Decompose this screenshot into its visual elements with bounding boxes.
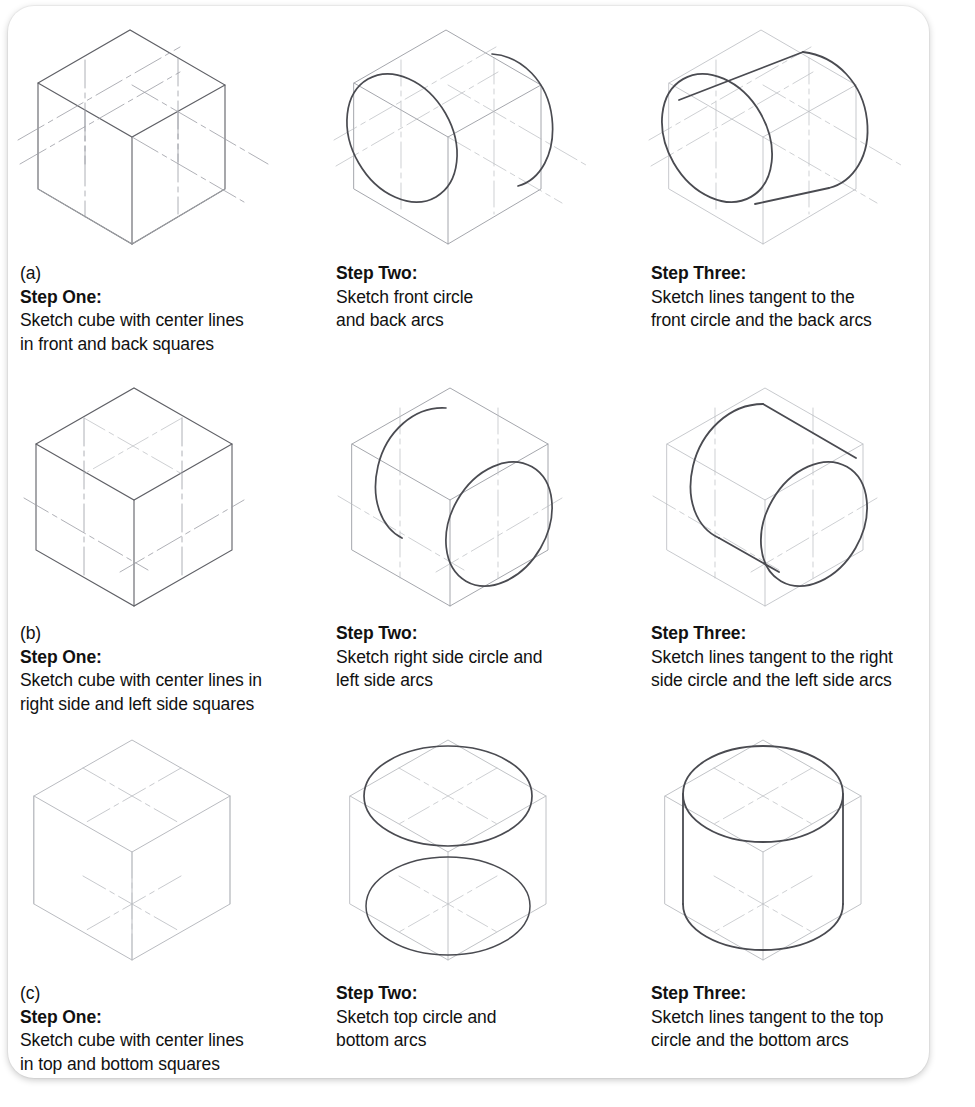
caption-line-1: Sketch cube with center lines: [20, 1029, 336, 1053]
sketch-right-circle-left-arcs: [336, 374, 651, 620]
step-title: Step Three:: [651, 622, 941, 646]
caption-line-2: in front and back squares: [20, 333, 336, 357]
caption-a-step-three: Step Three: Sketch lines tangent to the …: [651, 262, 941, 333]
sketch-cylinder-right-left: [651, 374, 941, 620]
caption-a-step-one: (a) Step One: Sketch cube with center li…: [20, 262, 336, 356]
caption-c-step-one: (c) Step One: Sketch cube with center li…: [20, 982, 336, 1076]
sketch-top-circle-bottom-arcs: [336, 734, 651, 980]
figure-cell-a2: Step Two: Sketch front circle and back a…: [336, 14, 651, 374]
caption-line-2: bottom arcs: [336, 1029, 651, 1053]
caption-line-1: Sketch lines tangent to the top: [651, 1006, 941, 1030]
row-label-b: (b): [20, 622, 41, 646]
caption-line-2: side circle and the left side arcs: [651, 669, 941, 693]
step-title: Step Two:: [336, 982, 651, 1006]
caption-b-step-one: (b) Step One: Sketch cube with center li…: [20, 622, 336, 716]
caption-line-1: Sketch top circle and: [336, 1006, 651, 1030]
figure-cell-b1: (b) Step One: Sketch cube with center li…: [20, 374, 336, 734]
sketch-cylinder-top-bottom: [651, 734, 941, 980]
figure-cell-a3: Step Three: Sketch lines tangent to the …: [651, 14, 941, 374]
caption-line-1: Sketch lines tangent to the: [651, 286, 941, 310]
step-title: Step Three:: [651, 262, 941, 286]
caption-line-1: Sketch right side circle and: [336, 646, 651, 670]
sketch-cube-front-back-center-lines: [20, 14, 336, 260]
sketch-cylinder-front-back: [651, 14, 941, 260]
caption-line-2: in top and bottom squares: [20, 1053, 336, 1077]
figure-cell-c1: (c) Step One: Sketch cube with center li…: [20, 734, 336, 1086]
figure-cell-b3: Step Three: Sketch lines tangent to the …: [651, 374, 941, 734]
figure-grid: (a) Step One: Sketch cube with center li…: [8, 6, 929, 1078]
figure-panel: (a) Step One: Sketch cube with center li…: [8, 6, 929, 1078]
step-title: Step One:: [20, 1006, 336, 1030]
caption-b-step-two: Step Two: Sketch right side circle and l…: [336, 622, 651, 693]
figure-cell-b2: Step Two: Sketch right side circle and l…: [336, 374, 651, 734]
step-title: Step Two:: [336, 262, 651, 286]
caption-line-2: and back arcs: [336, 309, 651, 333]
caption-line-2: left side arcs: [336, 669, 651, 693]
caption-line-1: Sketch cube with center lines: [20, 309, 336, 333]
caption-line-1: Sketch front circle: [336, 286, 651, 310]
caption-line-1: Sketch lines tangent to the right: [651, 646, 941, 670]
caption-line-2: circle and the bottom arcs: [651, 1029, 941, 1053]
step-title: Step Two:: [336, 622, 651, 646]
figure-cell-a1: (a) Step One: Sketch cube with center li…: [20, 14, 336, 374]
sketch-cube-side-center-lines: [20, 374, 336, 620]
caption-line-2: front circle and the back arcs: [651, 309, 941, 333]
figure-cell-c3: Step Three: Sketch lines tangent to the …: [651, 734, 941, 1086]
caption-c-step-three: Step Three: Sketch lines tangent to the …: [651, 982, 941, 1053]
row-label-a: (a): [20, 262, 41, 286]
figure-cell-c2: Step Two: Sketch top circle and bottom a…: [336, 734, 651, 1086]
caption-b-step-three: Step Three: Sketch lines tangent to the …: [651, 622, 941, 693]
step-title: Step One:: [20, 286, 336, 310]
step-title: Step One:: [20, 646, 336, 670]
sketch-cube-top-bottom-center-lines: [20, 734, 336, 980]
row-label-c: (c): [20, 982, 40, 1006]
caption-line-2: right side and left side squares: [20, 693, 336, 717]
step-title: Step Three:: [651, 982, 941, 1006]
caption-line-1: Sketch cube with center lines in: [20, 669, 336, 693]
sketch-front-circle-back-arcs: [336, 14, 651, 260]
caption-a-step-two: Step Two: Sketch front circle and back a…: [336, 262, 651, 333]
caption-c-step-two: Step Two: Sketch top circle and bottom a…: [336, 982, 651, 1053]
